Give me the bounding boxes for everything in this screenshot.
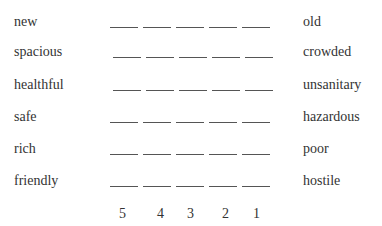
blank-5[interactable] [110,154,138,155]
blank-5[interactable] [110,186,138,187]
scale-number-4: 4 [157,204,164,224]
blank-2[interactable] [209,154,237,155]
blank-4[interactable] [143,122,171,123]
right-label: crowded [303,42,351,62]
scale-number-2: 2 [222,204,229,224]
scale-row-healthful-unsanitary: healthful unsanitary [0,75,382,95]
right-label: unsanitary [303,75,361,95]
right-label: hazardous [303,107,360,127]
left-label: friendly [14,171,58,191]
blank-4[interactable] [146,57,174,58]
left-label: spacious [14,42,62,62]
left-label: new [14,12,37,32]
blank-3[interactable] [179,57,207,58]
blank-4[interactable] [146,90,174,91]
blank-4[interactable] [143,27,171,28]
blank-3[interactable] [179,90,207,91]
blank-5[interactable] [110,122,138,123]
right-label: hostile [303,171,340,191]
blank-1[interactable] [245,57,273,58]
blank-2[interactable] [212,57,240,58]
blank-5[interactable] [110,27,138,28]
blank-1[interactable] [245,90,273,91]
scale-row-spacious-crowded: spacious crowded [0,42,382,62]
blank-1[interactable] [242,154,270,155]
scale-number-3: 3 [187,204,194,224]
blank-4[interactable] [143,154,171,155]
blank-1[interactable] [242,186,270,187]
blank-2[interactable] [212,90,240,91]
blank-2[interactable] [209,186,237,187]
blank-3[interactable] [176,186,204,187]
blank-3[interactable] [176,154,204,155]
blank-1[interactable] [242,27,270,28]
blank-4[interactable] [143,186,171,187]
left-label: safe [14,107,37,127]
blank-1[interactable] [242,122,270,123]
scale-row-new-old: new old [0,12,382,32]
right-label: old [303,12,321,32]
blank-3[interactable] [176,122,204,123]
blank-2[interactable] [209,27,237,28]
left-label: rich [14,139,36,159]
blank-3[interactable] [176,27,204,28]
left-label: healthful [14,75,64,95]
scale-row-safe-hazardous: safe hazardous [0,107,382,127]
scale-number-1: 1 [253,204,260,224]
scale-row-friendly-hostile: friendly hostile [0,171,382,191]
scale-number-5: 5 [119,204,126,224]
scale-row-rich-poor: rich poor [0,139,382,159]
blank-2[interactable] [209,122,237,123]
right-label: poor [303,139,329,159]
blank-5[interactable] [113,90,141,91]
blank-5[interactable] [113,57,141,58]
